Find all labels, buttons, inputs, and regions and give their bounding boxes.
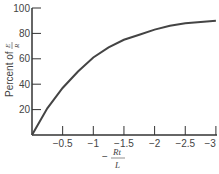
x-tick-label: −2.5 — [175, 138, 195, 149]
x-tick-label: −0.5 — [53, 138, 73, 149]
x-tick-label: −1 — [88, 138, 100, 149]
y-tick-label: 40 — [19, 79, 31, 90]
y-ticks: 20406080100 — [13, 3, 41, 116]
x-label-denominator: L — [114, 160, 120, 170]
y-tick-label: 100 — [13, 3, 30, 14]
x-ticks: −0.5−1−1.5−2−2.5−3 — [53, 126, 217, 149]
y-label-prefix: Percent of — [4, 51, 15, 97]
x-tick-label: −3 — [204, 138, 216, 149]
y-label-numerator: E — [4, 43, 12, 49]
x-label-numerator: Rt — [112, 147, 121, 157]
chart: 20406080100 −0.5−1−1.5−2−2.5−3 Percent o… — [0, 0, 219, 174]
y-label-denominator: R — [13, 43, 21, 49]
x-tick-label: −2 — [149, 138, 161, 149]
y-tick-label: 20 — [19, 104, 31, 115]
y-tick-label: 60 — [19, 53, 31, 64]
x-label-minus: − — [102, 151, 108, 162]
data-curve — [32, 21, 216, 135]
x-axis-label: − Rt L — [102, 147, 125, 170]
y-tick-label: 80 — [19, 28, 31, 39]
